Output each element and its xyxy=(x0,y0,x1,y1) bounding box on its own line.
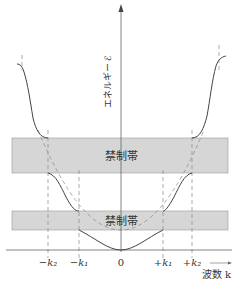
tick-zero: 0 xyxy=(118,257,124,268)
energy-axis-arrow-icon xyxy=(119,4,124,12)
wavenumber-axis-label: 波数 k xyxy=(202,268,232,280)
tick-plus-k1: +k₁ xyxy=(154,257,172,268)
wavenumber-arrowhead-icon xyxy=(228,262,232,265)
tick-plus-k2: +k₂ xyxy=(183,257,201,268)
tick-minus-k2: −k₂ xyxy=(39,257,57,268)
energy-axis-label: エネルギー ℰ xyxy=(103,55,113,109)
forbidden-band-lower-label: 禁制帯 xyxy=(105,215,138,228)
forbidden-band-upper-label: 禁制帯 xyxy=(105,150,138,163)
tick-minus-k1: −k₁ xyxy=(70,257,88,268)
band-structure-diagram: 禁制帯 禁制帯 エネルギー ℰ −k₂ −k₁ 0 +k₁ +k₂ 波数 k xyxy=(0,0,240,288)
